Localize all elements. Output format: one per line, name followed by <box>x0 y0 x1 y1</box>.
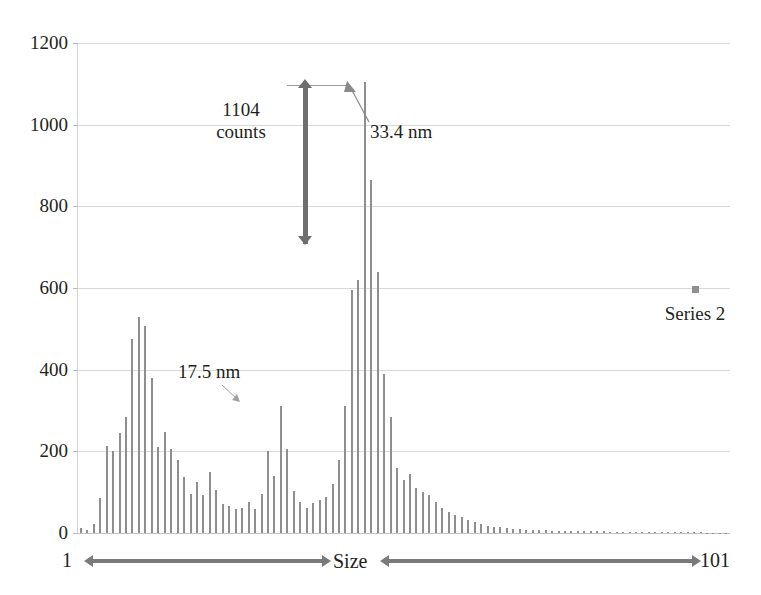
y-axis-label-1000: 1000 <box>4 115 68 134</box>
x-axis-arrowhead-mid-right-icon <box>322 555 331 567</box>
bar <box>261 494 263 533</box>
bar <box>629 532 631 533</box>
y-tick-0 <box>73 533 78 534</box>
bar <box>667 532 669 533</box>
bar <box>267 451 269 533</box>
bar <box>609 532 611 533</box>
legend-marker-series-2 <box>692 286 699 293</box>
x-axis-arrow-segment-right <box>388 559 692 563</box>
bar <box>222 504 224 533</box>
bar <box>551 531 553 533</box>
bar <box>454 515 456 533</box>
bar <box>364 82 366 533</box>
bar <box>293 491 295 533</box>
bar <box>306 508 308 533</box>
bar <box>712 533 714 534</box>
x-axis-end-label: 101 <box>700 548 730 572</box>
bar <box>461 517 463 533</box>
annotation-counts-unit: counts <box>193 121 289 143</box>
bar <box>415 488 417 533</box>
y-axis-label-600: 600 <box>4 278 68 297</box>
bar <box>273 476 275 533</box>
x-axis: 1 Size 101 <box>0 548 761 580</box>
bar <box>338 460 340 534</box>
bar <box>641 532 643 533</box>
bar <box>441 508 443 533</box>
bar <box>648 532 650 533</box>
bar <box>583 531 585 533</box>
gridline-0 <box>78 533 730 534</box>
legend-label-series-2: Series 2 <box>640 303 750 325</box>
bar <box>325 497 327 533</box>
bar <box>144 326 146 533</box>
bar <box>532 530 534 533</box>
bar <box>396 468 398 533</box>
bar <box>383 374 385 533</box>
bar <box>112 451 114 533</box>
bar <box>125 417 127 533</box>
bar <box>202 495 204 533</box>
bar <box>448 512 450 533</box>
bar <box>403 480 405 533</box>
bar <box>680 532 682 533</box>
measure-arrow-shaft <box>303 86 308 244</box>
bar <box>564 531 566 533</box>
bar <box>332 484 334 533</box>
bar <box>248 502 250 533</box>
bar <box>661 532 663 533</box>
bar <box>131 339 133 533</box>
bar <box>254 509 256 534</box>
bar <box>228 506 230 533</box>
bar <box>693 532 695 533</box>
bar <box>577 531 579 533</box>
bar <box>725 533 727 534</box>
bar <box>209 472 211 533</box>
x-axis-arrow-segment-left <box>92 559 322 563</box>
annotation-peak-small: 17.5 nm <box>178 361 240 383</box>
bar <box>164 432 166 533</box>
x-axis-title: Size <box>333 549 367 573</box>
bar <box>422 492 424 533</box>
bar <box>493 527 495 533</box>
bar <box>654 532 656 533</box>
histogram-chart: 020040060080010001200 1104 counts 33.4 n… <box>0 0 761 595</box>
bar <box>106 446 108 533</box>
bar <box>506 528 508 533</box>
bar <box>467 520 469 533</box>
bar <box>319 500 321 533</box>
bar <box>674 532 676 533</box>
bar <box>196 482 198 533</box>
bar <box>622 532 624 533</box>
y-axis-label-800: 800 <box>4 196 68 215</box>
bar <box>480 524 482 533</box>
bar <box>474 522 476 533</box>
bar <box>570 531 572 533</box>
bar <box>286 449 288 533</box>
bar <box>190 494 192 533</box>
y-axis-label-0: 0 <box>4 523 68 542</box>
bar <box>183 477 185 533</box>
bar <box>409 474 411 533</box>
measure-arrowhead-down-icon <box>298 236 312 245</box>
bar <box>596 531 598 533</box>
legend: Series 2 <box>640 286 750 325</box>
bar <box>357 280 359 533</box>
bar <box>519 529 521 533</box>
bar <box>558 531 560 533</box>
annotation-peak-large: 33.4 nm <box>370 121 432 143</box>
bar <box>215 490 217 533</box>
bar <box>241 508 243 533</box>
bar <box>687 532 689 533</box>
plot-area <box>78 43 730 533</box>
bar <box>390 417 392 533</box>
bar <box>280 406 282 533</box>
bar <box>635 532 637 533</box>
bar <box>235 509 237 534</box>
bar <box>499 527 501 533</box>
y-axis-label-400: 400 <box>4 360 68 379</box>
bar <box>119 433 121 533</box>
bar <box>151 378 153 533</box>
measure-leader-line <box>287 85 347 86</box>
bar <box>538 530 540 533</box>
bar <box>435 502 437 533</box>
